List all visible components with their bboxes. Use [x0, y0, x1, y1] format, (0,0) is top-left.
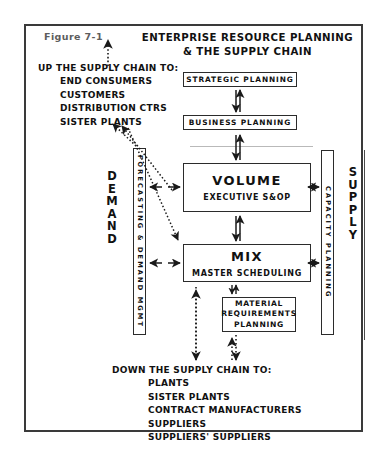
arrow-diagonal-volume-upstream [122, 126, 172, 190]
arrow-layer [0, 0, 387, 456]
arrow-diagonal-forecast-upstream [113, 124, 136, 146]
diagram-canvas: Figure 7-1 ENTERPRISE RESOURCE PLANNING … [0, 0, 387, 456]
